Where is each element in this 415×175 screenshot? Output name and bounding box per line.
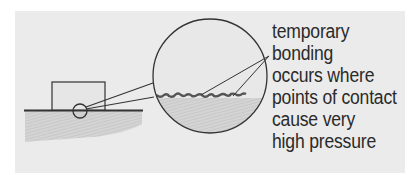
ground-surface: [25, 111, 142, 142]
caption-line: temporary: [272, 20, 397, 42]
caption-line: cause very: [272, 108, 397, 130]
block: [52, 82, 105, 110]
caption-line: points of contact: [272, 86, 397, 108]
caption-line: occurs where: [272, 64, 397, 86]
magnified-view: [150, 19, 270, 138]
caption-line: bonding: [272, 42, 397, 64]
caption: temporary bonding occurs where points of…: [272, 20, 397, 152]
caption-line: high pressure: [272, 130, 397, 152]
